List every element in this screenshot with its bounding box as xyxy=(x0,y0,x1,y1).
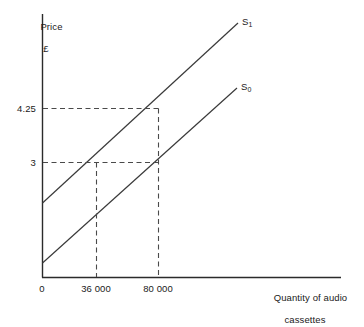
x-axis-title-line-2: cassettes xyxy=(253,314,357,325)
x-axis-title-line-1: Quantity of audio xyxy=(274,292,348,303)
x-axis-title: Quantity of audio cassettes xyxy=(253,281,357,327)
series-label-s1: S1 xyxy=(242,16,252,28)
series-label-s0-subscript: 0 xyxy=(247,86,251,93)
y-axis-tick-label-425: 4.25 xyxy=(4,103,36,114)
y-axis-title-line-1: Price xyxy=(40,21,62,32)
series-label-s1-subscript: 1 xyxy=(248,21,252,28)
x-axis-tick-label-0: 0 xyxy=(30,283,54,294)
y-axis-title-line-2: £ xyxy=(24,43,68,54)
series-label-s0: S0 xyxy=(241,81,251,93)
x-axis-tick-label-36000: 36 000 xyxy=(70,283,122,294)
y-axis-tick-label-3: 3 xyxy=(4,157,36,168)
y-axis-title: Price £ xyxy=(24,10,68,76)
x-axis-tick-label-80000: 80 000 xyxy=(132,283,184,294)
